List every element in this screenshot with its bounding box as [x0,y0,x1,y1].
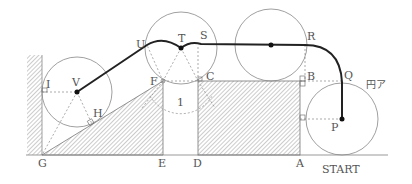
label-q: Q [344,69,353,82]
right-block [198,81,300,155]
label-g: G [38,157,47,170]
label-t: T [178,32,186,45]
center-p-dot [340,117,345,122]
label-c: C [206,70,214,83]
label-u: U [136,38,145,51]
center-v-dot [75,90,80,95]
center-top-right-dot [269,43,274,48]
label-f: F [150,75,158,88]
label-i: I [46,78,50,91]
label-circle-a: 円ア [366,79,386,90]
label-p: P [331,121,339,134]
left-wall [27,55,42,155]
center-t-dot [179,46,184,51]
label-v: V [71,76,81,89]
label-d: D [193,157,202,170]
diagram-canvas: I V H U T S F C 1 R B Q 円ア P G E D A STA… [0,0,412,184]
label-a: A [295,157,305,170]
label-h: H [93,107,103,120]
label-start: START [322,163,360,176]
label-gap: 1 [177,96,184,109]
label-r: R [307,30,316,43]
label-e: E [158,157,166,170]
label-b: B [307,70,315,83]
geometry-diagram: I V H U T S F C 1 R B Q 円ア P G E D A STA… [0,0,412,184]
label-s: S [200,29,208,42]
